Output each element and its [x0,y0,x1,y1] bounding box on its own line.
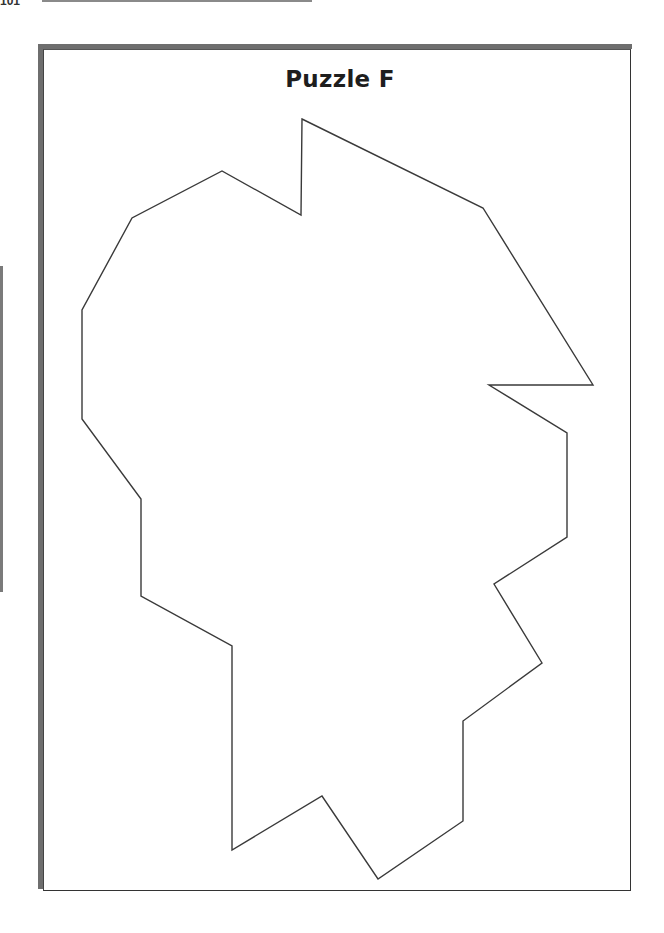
puzzle-outline-polygon [82,119,593,879]
puzzle-shape [0,0,664,933]
